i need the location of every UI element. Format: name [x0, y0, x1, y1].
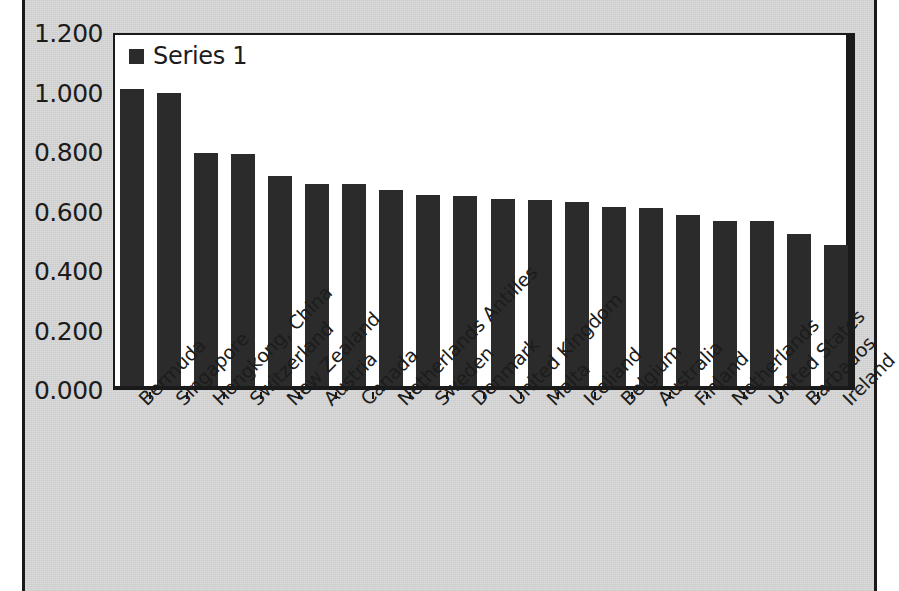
- y-axis-tick-label: 1.200: [34, 19, 103, 48]
- bar: [157, 93, 181, 386]
- y-axis-tick-label: 0.600: [34, 197, 103, 226]
- chart-frame: 0.0000.2000.4000.6000.8001.0001.200 Seri…: [22, 0, 877, 591]
- x-axis-tick: [780, 392, 782, 399]
- x-axis-tick: [520, 392, 522, 399]
- y-axis-tick-label: 0.800: [34, 138, 103, 167]
- x-axis-tick: [483, 392, 485, 399]
- y-axis: 0.0000.2000.4000.6000.8001.0001.200: [25, 0, 111, 591]
- x-axis-tick: [669, 392, 671, 399]
- bar: [120, 89, 144, 387]
- x-axis-tick: [372, 392, 374, 399]
- x-axis-tick: [335, 392, 337, 399]
- x-axis-tick: [817, 392, 819, 399]
- y-axis-tick-label: 0.000: [34, 376, 103, 405]
- x-axis-category-labels: BermudaSingaporeHongkong, ChinaSwitzerla…: [113, 394, 855, 591]
- x-axis-tick: [631, 392, 633, 399]
- y-axis-tick-label: 0.400: [34, 257, 103, 286]
- x-axis-tick: [149, 392, 151, 399]
- y-axis-tick-label: 0.200: [34, 316, 103, 345]
- x-axis-tick: [743, 392, 745, 399]
- plot-area: Series 1: [113, 33, 855, 390]
- x-axis-tick: [298, 392, 300, 399]
- x-axis-tick: [594, 392, 596, 399]
- x-axis-tick: [186, 392, 188, 399]
- x-axis-tick: [260, 392, 262, 399]
- x-axis-tick: [557, 392, 559, 399]
- x-axis-tick: [409, 392, 411, 399]
- x-axis-tick: [706, 392, 708, 399]
- y-axis-tick-label: 1.000: [34, 78, 103, 107]
- x-axis-tick: [446, 392, 448, 399]
- x-axis-tick: [223, 392, 225, 399]
